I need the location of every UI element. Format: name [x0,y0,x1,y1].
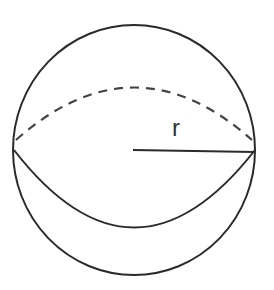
equator-back-dashed [16,88,252,141]
radius-line [133,150,255,152]
sphere-diagram: r [0,0,274,290]
radius-label: r [172,114,180,141]
equator-front [14,150,255,228]
